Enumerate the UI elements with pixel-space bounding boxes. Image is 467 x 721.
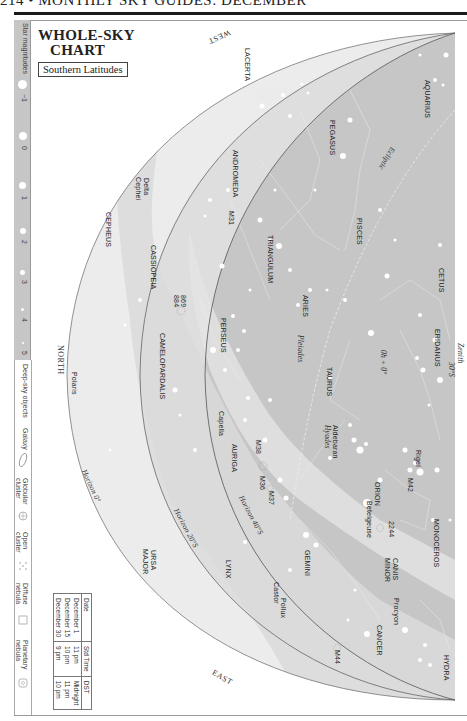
constellation-monoceros: MONOCEROS <box>433 519 440 567</box>
constellation-perseus: PERSEUS <box>220 318 227 353</box>
label-aldebaran: Aldebaran <box>332 425 339 459</box>
open-cluster-icon <box>17 560 29 572</box>
label-pleiades: Pleiades <box>296 335 305 362</box>
legend-globular-label: Globular cluster <box>15 478 29 508</box>
cell-dst: 10 pm <box>54 676 64 710</box>
cell-std-time: 11 pm <box>72 642 82 677</box>
constellation-cepheus: CEPHEUS <box>105 212 112 247</box>
magnitude-0-dot <box>19 132 27 140</box>
magnitude-minus1-dot <box>18 80 27 89</box>
planetary-nebula-icon <box>17 677 29 689</box>
constellation-taurus: TAURUS <box>326 367 333 396</box>
label-rigel: Rigel <box>415 450 422 467</box>
constellation-triangulum: TRIANGULUM <box>267 235 274 283</box>
magnitude-4-dot <box>21 308 24 311</box>
label-ngc2244: 2244 <box>388 521 395 537</box>
label-pollux: Pollux <box>280 598 287 618</box>
label-delta-cephei-2: Cephei <box>135 177 142 200</box>
cell-std-time: 10 pm <box>63 642 72 677</box>
constellation-cetus: CETUS <box>438 268 445 293</box>
constellation-gemini: GEMINI <box>304 550 311 576</box>
label-m42: M42 <box>407 478 414 492</box>
constellation-orion: ORION <box>374 482 381 506</box>
time-table-header: Date Std Time DST <box>82 594 92 710</box>
legend-diffuse-nebula-label: Diffuse nebula <box>15 583 29 613</box>
cell-date: December 1 <box>72 594 82 642</box>
magnitude-label: 5 <box>21 351 28 355</box>
title-line-2: CHART <box>38 43 135 58</box>
header-date: Date <box>82 594 92 642</box>
legend-open-cluster-label: Open cluster <box>15 532 29 562</box>
table-row: December 30 9 pm 10 pm <box>54 594 64 710</box>
constellation-ursa-major-1: URSA <box>150 550 157 570</box>
cell-date: December 30 <box>54 594 64 642</box>
cell-dst: Midnight <box>72 676 82 710</box>
legend-galaxy-label: Galaxy <box>22 428 29 450</box>
magnitude-1-dot <box>19 182 26 189</box>
diffuse-nebula-icon <box>17 614 29 626</box>
label-m36: M36 <box>259 476 266 490</box>
cell-date: December 15 <box>63 594 72 642</box>
magnitude-label: 0 <box>21 146 28 150</box>
globular-cluster-icon <box>17 510 29 522</box>
legend-deep-sky-title: Deep-sky objects <box>22 364 29 418</box>
chart-title: WHOLE-SKY CHART <box>38 28 135 58</box>
magnitude-label: 1 <box>21 196 28 200</box>
direction-north: NORTH <box>56 345 65 375</box>
label-betelgeuse: Betelgeuse <box>366 501 373 538</box>
table-row: December 15 10 pm 11 pm <box>63 594 72 710</box>
label-m37: M37 <box>268 491 275 505</box>
zenith-label: Zenith <box>456 343 465 363</box>
constellation-eridanus: ERIDANUS <box>434 329 441 367</box>
magnitude-5-dot <box>22 342 24 344</box>
galaxy-ellipse-icon <box>17 450 29 470</box>
label-polaris: Polaris <box>71 372 78 395</box>
constellation-aquarius: AQUARIUS <box>424 80 431 118</box>
constellation-canis-minor-1: CANIS <box>392 558 399 580</box>
constellation-lynx: LYNX <box>225 560 232 579</box>
label-hyades: Hyades <box>323 425 332 449</box>
constellation-pisces: PISCES <box>356 218 363 245</box>
title-line-1: WHOLE-SKY <box>38 28 135 43</box>
constellation-ursa-major-2: MAJOR <box>142 549 149 575</box>
legend-magnitudes-title: Star magnitudes <box>22 23 29 74</box>
label-procyon: Procyon <box>393 598 400 625</box>
magnitude-label: 2 <box>21 240 28 244</box>
constellation-auriga: AURIGA <box>231 444 238 472</box>
label-ngc884: 884 <box>173 295 180 307</box>
cell-std-time: 9 pm <box>54 642 64 677</box>
magnitude-label: 4 <box>21 318 28 322</box>
table-row: December 1 11 pm Midnight <box>72 594 82 710</box>
label-delta-cephei-1: Delta <box>143 178 150 195</box>
constellation-aries: ARIES <box>302 295 309 317</box>
magnitude-2-dot <box>20 228 26 234</box>
constellation-pegasus: PEGASUS <box>329 120 336 155</box>
label-ngc869: 869 <box>180 295 187 307</box>
constellation-cancer: CANCER <box>376 625 383 656</box>
cell-dst: 11 pm <box>63 676 72 710</box>
constellation-andromeda: ANDROMEDA <box>232 150 239 197</box>
constellation-lacerta: LACERTA <box>244 48 251 81</box>
label-castor: Castor <box>273 582 280 604</box>
constellation-camelopardalis: CAMELOPARDALIS <box>159 333 166 399</box>
label-capella: Capella <box>218 411 225 436</box>
constellation-hydra: HYDRA <box>443 655 450 681</box>
label-m44: M44 <box>334 650 341 664</box>
magnitude-3-dot <box>20 270 25 275</box>
label-m31: M31 <box>228 211 235 225</box>
constellation-cassiopeia: CASSIOPEIA <box>150 245 157 289</box>
subtitle-southern-latitudes: Southern Latitudes <box>38 62 128 77</box>
legend-planetary-nebula-label: Planetary nebula <box>15 640 29 674</box>
origin-marker: 0h + 0° <box>379 350 388 374</box>
header-dst: DST <box>82 676 92 710</box>
label-m38: M38 <box>255 440 262 454</box>
zenith-latitude: 30°S <box>447 362 456 377</box>
magnitude-label: 3 <box>21 280 28 284</box>
header-std-time: Std Time <box>82 642 92 677</box>
magnitude-label: −1 <box>21 94 28 102</box>
constellation-canis-minor-2: MINOR <box>384 558 391 582</box>
time-table: Date Std Time DST December 1 11 pm Midni… <box>53 593 92 710</box>
